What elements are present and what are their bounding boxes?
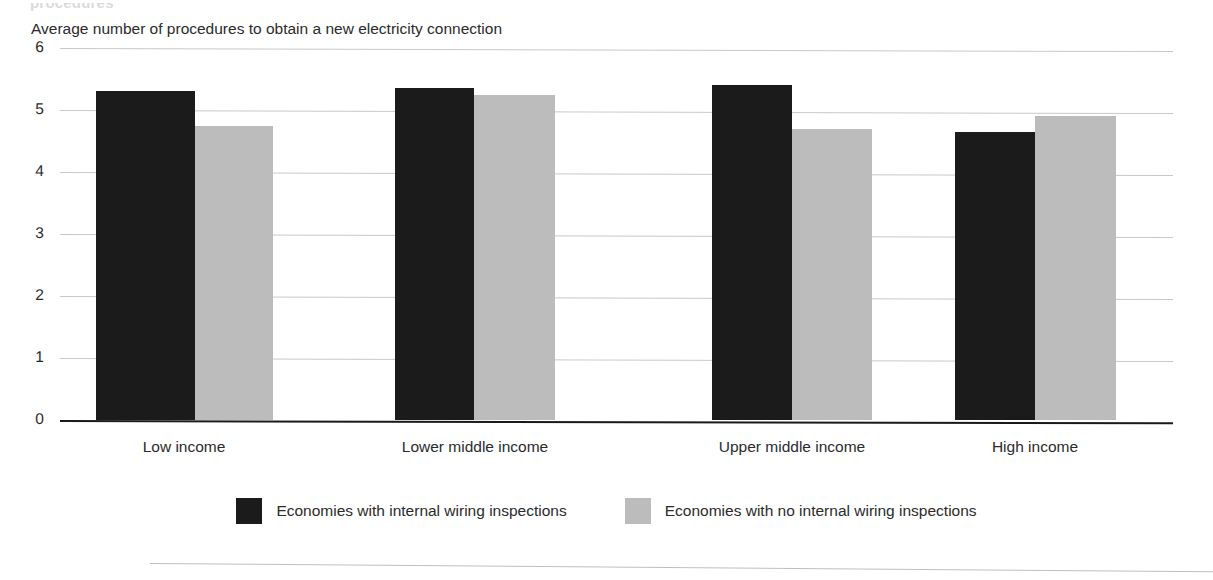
x-axis-category-label: Lower middle income — [402, 438, 548, 456]
bars-group — [60, 48, 1173, 420]
y-axis-tick-label: 3 — [14, 224, 44, 242]
bar — [955, 132, 1035, 420]
legend-item: Economies with internal wiring inspectio… — [236, 498, 566, 524]
bar — [395, 88, 474, 420]
bar — [712, 85, 792, 420]
x-axis-category-label: Upper middle income — [719, 438, 865, 456]
x-axis-labels: Low incomeLower middle incomeUpper middl… — [60, 438, 1173, 462]
x-axis-category-label: High income — [992, 438, 1078, 456]
y-axis-tick-label: 6 — [14, 38, 44, 56]
legend-label: Economies with internal wiring inspectio… — [276, 502, 566, 520]
chart-legend: Economies with internal wiring inspectio… — [0, 498, 1213, 524]
bar — [474, 95, 555, 421]
y-axis-tick-label: 0 — [14, 410, 44, 428]
bar — [792, 129, 872, 420]
bar — [1035, 116, 1116, 420]
axis-zero-line: 0 — [60, 420, 1173, 424]
plot-area: 0123456 — [60, 48, 1173, 420]
y-axis-tick-label: 5 — [14, 100, 44, 118]
y-axis-tick-label: 1 — [14, 348, 44, 366]
y-axis-tick-label: 2 — [14, 286, 44, 304]
bar — [96, 91, 195, 420]
dark-swatch — [236, 498, 262, 524]
legend-label: Economies with no internal wiring inspec… — [665, 502, 977, 520]
legend-item: Economies with no internal wiring inspec… — [625, 498, 977, 524]
x-axis-category-label: Low income — [143, 438, 226, 456]
cropped-heading-text: procedures — [30, 0, 114, 11]
y-axis-tick-label: 4 — [14, 162, 44, 180]
chart-subtitle: Average number of procedures to obtain a… — [31, 20, 502, 38]
light-swatch — [625, 498, 651, 524]
chart-figure: procedures Average number of procedures … — [0, 0, 1213, 580]
bar — [195, 126, 273, 421]
footer-rule — [150, 563, 1213, 572]
